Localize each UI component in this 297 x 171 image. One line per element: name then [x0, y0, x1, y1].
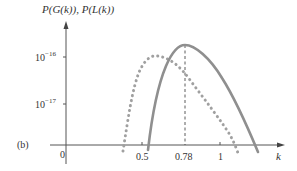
chart-svg: P(G(k)), P(L(k)) 10−16 10−17 0 0.5 0.78 …	[0, 0, 297, 171]
x-tick-label-1: 1	[218, 151, 223, 162]
x-tick-label-0.5: 0.5	[136, 151, 149, 162]
y-axis-arrow-icon	[64, 21, 69, 29]
chart: P(G(k)), P(L(k)) 10−16 10−17 0 0.5 0.78 …	[0, 0, 297, 171]
series-dotted-curve	[123, 56, 239, 156]
y-axis-label: P(G(k)), P(L(k))	[41, 3, 114, 16]
x-tick-label-0.78: 0.78	[175, 151, 193, 162]
x-axis-arrow-icon	[277, 143, 285, 148]
x-origin-label: 0	[60, 149, 65, 160]
y-tick-label-1e-16: 10−16	[35, 50, 56, 63]
y-tick-label-1e-17: 10−17	[35, 97, 56, 110]
x-axis-label: k	[276, 150, 282, 162]
panel-label: (b)	[17, 139, 29, 151]
series-solid-curve	[148, 45, 258, 152]
